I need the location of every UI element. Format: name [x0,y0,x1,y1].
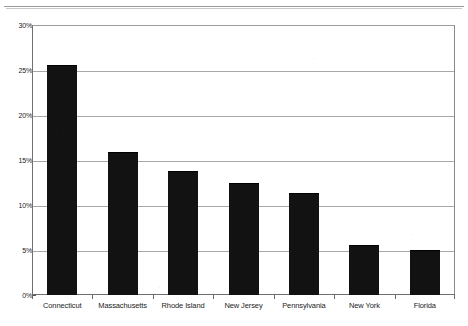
x-axis-tick-label: Rhode Island [153,301,213,311]
bar-slot [229,25,259,295]
bar-slot [108,25,138,295]
y-axis-tick-label: 30% [6,22,32,29]
bar-slot [47,25,77,295]
y-axis-tick-label: 0% [6,292,32,299]
x-axis-tick-mark [92,295,93,299]
y-axis-tick-label: 25% [6,67,32,74]
x-axis-tick-mark [213,295,214,299]
bar[interactable] [47,65,77,295]
x-axis-tick-label: Florida [395,301,455,311]
x-axis-tick-label: New York [334,301,394,311]
y-axis-tick-label: 10% [6,202,32,209]
bar-slot [349,25,379,295]
bar-series [32,25,455,295]
bar[interactable] [410,250,440,295]
bar[interactable] [108,152,138,295]
bar[interactable] [168,171,198,295]
bar[interactable] [229,183,259,295]
x-axis-tick-mark [274,295,275,299]
x-axis-tick-mark [32,295,33,299]
bar-slot [410,25,440,295]
x-axis-tick-mark [334,295,335,299]
x-axis-tick-label: Massachusetts [92,301,152,311]
bar-chart: 0%5%10%15%20%25%30% ConnecticutMassachus… [0,0,468,326]
y-axis-tick-label: 20% [6,112,32,119]
bar[interactable] [289,193,319,295]
y-axis-tick-label: 5% [6,247,32,254]
x-axis-tick-label: New Jersey [213,301,273,311]
x-axis-tick-mark [395,295,396,299]
bar[interactable] [349,245,379,295]
x-axis-tick-label: Pennsylvania [274,301,334,311]
x-axis-tick-mark [454,295,455,299]
y-axis: 0%5%10%15%20%25%30% [0,25,32,296]
x-axis: ConnecticutMassachusettsRhode IslandNew … [32,295,455,325]
x-axis-tick-label: Connecticut [32,301,92,311]
chart-page: 0%5%10%15%20%25%30% ConnecticutMassachus… [0,0,468,326]
bar-slot [168,25,198,295]
x-axis-tick-mark [153,295,154,299]
y-axis-tick-label: 15% [6,157,32,164]
bar-slot [289,25,319,295]
